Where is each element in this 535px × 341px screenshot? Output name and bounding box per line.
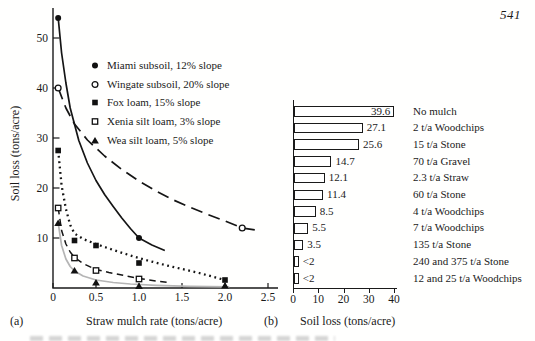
bar-value-label: 25.6 bbox=[363, 138, 382, 150]
b-x-axis bbox=[293, 288, 397, 289]
cutoff-caption-text bbox=[30, 336, 335, 341]
bar-category-label: 135 t/a Stone bbox=[413, 238, 471, 250]
bar bbox=[294, 240, 303, 251]
book-page: 541 102030405000.51.01.52.02.5 Soil loss… bbox=[0, 0, 535, 341]
bar-category-label: 60 t/a Stone bbox=[413, 188, 466, 200]
bar-category-label: 15 t/a Stone bbox=[413, 138, 466, 150]
bar-value-label: <2 bbox=[303, 255, 315, 267]
bar-value-label: 11.4 bbox=[327, 188, 346, 200]
bar-category-label: 70 t/a Gravel bbox=[413, 155, 470, 167]
panel-b-tag: (b) bbox=[264, 314, 278, 329]
bar-value-label: 12.1 bbox=[329, 171, 348, 183]
bar-category-label: No mulch bbox=[413, 105, 457, 117]
b-x-tick-label: 10 bbox=[313, 293, 325, 305]
bar-category-label: 4 t/a Woodchips bbox=[413, 205, 484, 217]
bar-value-label: 39.6 bbox=[358, 105, 390, 117]
soil-loss-bar-chart: 01020304039.6No mulch27.12 t/a Woodchips… bbox=[0, 0, 535, 341]
bar-category-label: 240 and 375 t/a Stone bbox=[413, 255, 509, 267]
bar-value-label: 8.5 bbox=[320, 205, 334, 217]
bar-value-label: 27.1 bbox=[367, 121, 386, 133]
b-x-tick-label: 30 bbox=[363, 293, 375, 305]
b-x-tick-label: 20 bbox=[338, 293, 350, 305]
bar bbox=[294, 190, 323, 201]
bar-category-label: 2.3 t/a Straw bbox=[413, 171, 469, 183]
bar-category-label: 7 t/a Woodchips bbox=[413, 221, 484, 233]
bar bbox=[294, 273, 299, 284]
bar bbox=[294, 139, 359, 150]
bar-category-label: 12 and 25 t/a Woodchips bbox=[413, 272, 522, 284]
bar bbox=[294, 223, 308, 234]
b-x-tick-label: 40 bbox=[388, 293, 400, 305]
bar bbox=[294, 123, 362, 134]
bar-category-label: 2 t/a Woodchips bbox=[413, 121, 484, 133]
bar-value-label: 5.5 bbox=[312, 221, 326, 233]
bar bbox=[294, 156, 331, 167]
bar bbox=[294, 206, 315, 217]
bar-value-label: 3.5 bbox=[307, 238, 321, 250]
bar bbox=[294, 173, 325, 184]
bar-value-label: <2 bbox=[303, 272, 315, 284]
b-x-tick-label: 0 bbox=[290, 293, 296, 305]
bar bbox=[294, 256, 299, 267]
x-axis-label-b: Soil loss (tons/acre) bbox=[300, 314, 395, 329]
bar-value-label: 14.7 bbox=[335, 155, 354, 167]
